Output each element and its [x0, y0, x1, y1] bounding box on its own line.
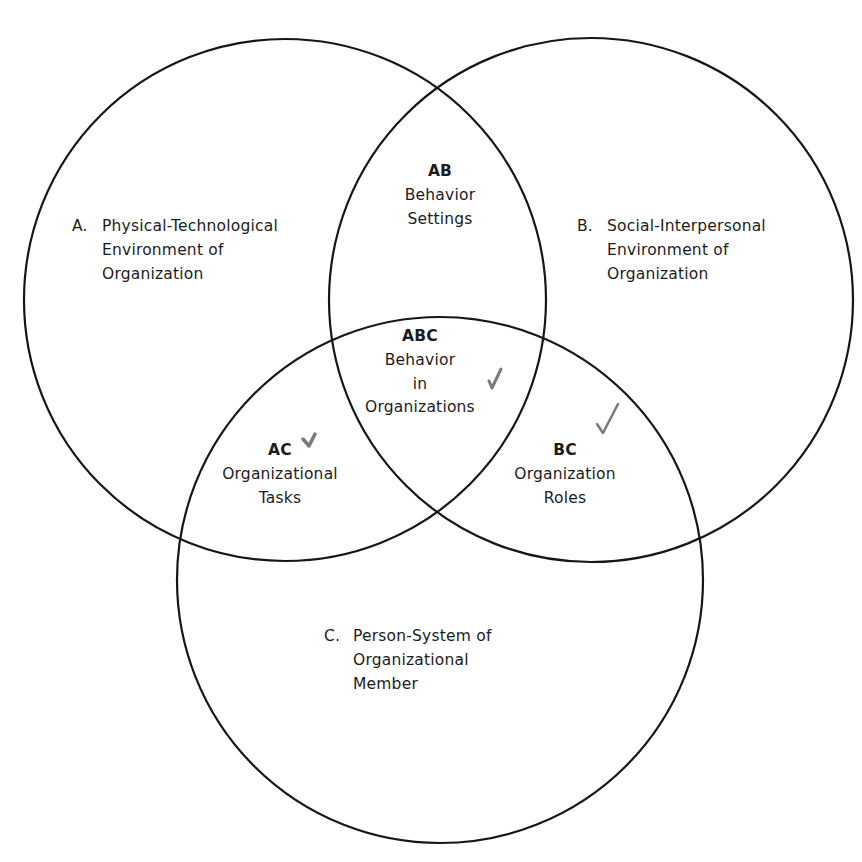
abc-check-icon — [489, 369, 501, 388]
abc-line-1: Behavior — [385, 351, 456, 369]
venn-diagram: A. Physical-Technological Environment of… — [0, 0, 862, 862]
set-a-line-1: Physical-Technological — [102, 217, 278, 235]
ac-check-icon — [303, 434, 315, 446]
ac-code: AC — [268, 441, 292, 459]
set-a-line-3: Organization — [102, 265, 204, 283]
circle-b — [329, 38, 853, 562]
intersection-ab-label: AB Behavior Settings — [405, 162, 476, 228]
ac-line-2: Tasks — [258, 489, 302, 507]
set-b-label: B. Social-Interpersonal Environment of O… — [577, 217, 766, 283]
ac-line-1: Organizational — [222, 465, 338, 483]
abc-code: ABC — [402, 327, 438, 345]
set-a-label: A. Physical-Technological Environment of… — [72, 217, 278, 283]
bc-check-icon — [597, 404, 618, 433]
ab-line-1: Behavior — [405, 186, 476, 204]
abc-line-3: Organizations — [365, 398, 475, 416]
set-b-letter: B. — [577, 217, 593, 235]
bc-line-1: Organization — [514, 465, 616, 483]
set-b-line-1: Social-Interpersonal — [607, 217, 766, 235]
set-c-letter: C. — [324, 627, 340, 645]
intersection-bc-label: BC Organization Roles — [514, 441, 616, 507]
circle-c — [177, 317, 703, 843]
set-b-line-3: Organization — [607, 265, 709, 283]
bc-line-2: Roles — [544, 489, 586, 507]
ab-line-2: Settings — [407, 210, 472, 228]
set-c-line-2: Organizational — [353, 651, 469, 669]
set-a-line-2: Environment of — [102, 241, 224, 259]
set-c-line-3: Member — [353, 675, 418, 693]
set-c-line-1: Person-System of — [353, 627, 492, 645]
ab-code: AB — [428, 162, 452, 180]
abc-line-2: in — [413, 375, 428, 393]
bc-code: BC — [553, 441, 577, 459]
set-a-letter: A. — [72, 217, 88, 235]
intersection-abc-label: ABC Behavior in Organizations — [365, 327, 475, 416]
set-c-label: C. Person-System of Organizational Membe… — [324, 627, 492, 693]
intersection-ac-label: AC Organizational Tasks — [222, 441, 338, 507]
set-b-line-2: Environment of — [607, 241, 729, 259]
